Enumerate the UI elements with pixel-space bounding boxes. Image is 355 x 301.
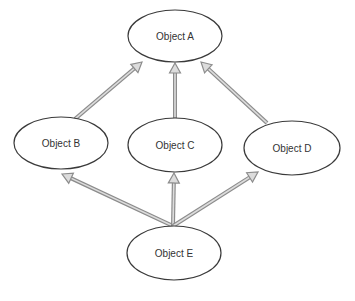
- arrow-e-to-c: [168, 173, 179, 226]
- node-d-label: Object D: [273, 143, 312, 154]
- node-a-label: Object A: [156, 31, 194, 42]
- node-b-label: Object B: [42, 138, 81, 149]
- arrow-shaft-fill: [207, 67, 267, 122]
- node-object-a: Object A: [128, 10, 222, 62]
- arrow-shaft-fill: [173, 181, 174, 226]
- node-e-label: Object E: [155, 248, 194, 259]
- node-c-label: Object C: [156, 140, 195, 151]
- arrowhead-icon: [62, 173, 73, 183]
- arrow-d-to-a: [201, 62, 267, 123]
- arrow-b-to-a: [75, 62, 142, 119]
- node-object-e: Object E: [127, 226, 221, 280]
- node-object-b: Object B: [14, 117, 108, 169]
- arrow-e-to-b: [62, 173, 173, 226]
- arrowhead-icon: [168, 173, 179, 183]
- node-object-d: Object D: [244, 121, 340, 175]
- arrow-shaft-fill: [69, 177, 172, 225]
- nodes-layer: Object A Object B Object C Object D Obje…: [14, 10, 340, 280]
- arrow-shaft-fill: [173, 176, 251, 225]
- arrowhead-icon: [170, 63, 181, 73]
- object-hierarchy-diagram: Object A Object B Object C Object D Obje…: [0, 0, 355, 301]
- node-object-c: Object C: [128, 118, 222, 172]
- arrow-e-to-d: [173, 172, 258, 226]
- arrow-c-to-a: [170, 63, 181, 118]
- arrow-shaft-fill: [75, 67, 136, 118]
